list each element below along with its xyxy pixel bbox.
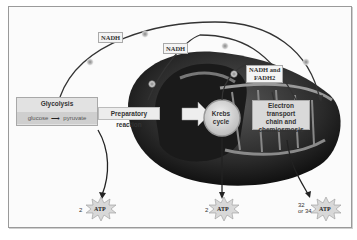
electron-transport-chain-box: Electron transport chain and chemiosmosi… xyxy=(252,100,310,130)
nadh-label-2: NADH xyxy=(163,43,188,54)
krebs-line1: Krebs xyxy=(206,110,236,118)
atp-yield-glycolysis: 2 xyxy=(79,207,82,213)
nadh-fadh2-label: NADH and FADH2 xyxy=(246,65,283,83)
atp-yield-etc: 32 or 34 xyxy=(298,202,312,214)
pyruvate-label: pyruvate xyxy=(63,115,86,121)
glycolysis-reaction: glucose ⟶ pyruvate xyxy=(17,112,97,124)
atp-label-etc: ATP xyxy=(319,206,331,212)
arrow-right-icon: ⟶ xyxy=(51,115,60,122)
glycolysis-box: Glycolysis glucose ⟶ pyruvate xyxy=(16,97,98,126)
glycolysis-title: Glycolysis xyxy=(17,100,97,107)
nadh-fadh2-line2: FADH2 xyxy=(249,74,280,82)
krebs-line2: cycle xyxy=(206,118,236,126)
nadh-label-1: NADH xyxy=(98,32,123,43)
etc-line1: Electron transport xyxy=(253,102,309,118)
krebs-cycle-label: Krebs cycle xyxy=(206,110,236,126)
atp-label-krebs: ATP xyxy=(217,206,229,212)
nadh-fadh2-line1: NADH and xyxy=(249,66,280,74)
atp-yield-krebs: 2 xyxy=(205,207,208,213)
atp-yield-etc-line2: or 34 xyxy=(298,208,312,214)
etc-line2: chain and xyxy=(253,118,309,126)
atp-label-glycolysis: ATP xyxy=(94,206,106,212)
glucose-label: glucose xyxy=(28,115,49,121)
etc-line3: chemiosmosis xyxy=(253,126,309,134)
preparatory-reaction-label: Preparatory reaction xyxy=(98,107,160,120)
